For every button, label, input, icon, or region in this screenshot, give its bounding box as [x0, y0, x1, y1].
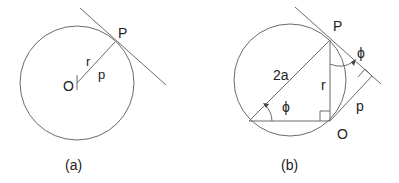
label-p-a: P [118, 25, 127, 41]
tangent-line-a [80, 8, 166, 85]
caption-a: (a) [65, 157, 82, 173]
label-o-a: O [63, 78, 74, 94]
caption-b: (b) [281, 157, 298, 173]
arrow-p-b [351, 59, 356, 66]
label-p-perp-b: p [356, 98, 364, 114]
radius-line-a [77, 42, 115, 83]
figure-a [20, 8, 166, 140]
figure-b [234, 7, 381, 136]
diagram-canvas: P O r p (a) P O 2a r p ϕ ϕ (b) [0, 0, 399, 183]
angle-arc-p-b [330, 62, 353, 66]
label-p-b: P [333, 18, 342, 34]
perp-line-b [330, 76, 372, 121]
label-phi-p-b: ϕ [357, 45, 365, 61]
right-angle-o-b [320, 111, 330, 121]
label-2a-b: 2a [273, 67, 289, 83]
label-p-perp-a: p [98, 67, 105, 82]
label-phi-left-b: ϕ [282, 99, 290, 115]
label-o-b: O [337, 126, 348, 142]
label-r-a: r [86, 54, 91, 69]
label-r-b: r [321, 77, 326, 93]
